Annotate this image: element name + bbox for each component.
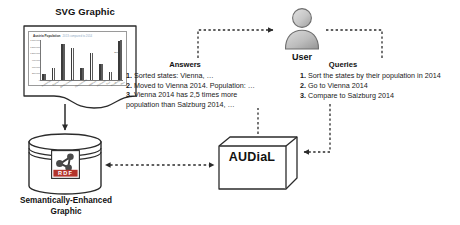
diagram-canvas: SVG Graphic Austria Population 2013 comp…	[0, 0, 460, 225]
arrow-answers-to-user	[198, 30, 273, 58]
arrow-queries-to-audial	[304, 104, 330, 152]
connector-arrows	[0, 0, 460, 225]
arrow-user-to-queries	[326, 30, 382, 58]
